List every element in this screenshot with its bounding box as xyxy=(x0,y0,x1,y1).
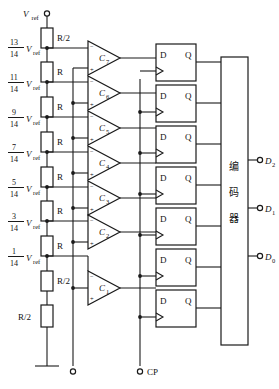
flipflop-7-d-label: D xyxy=(160,50,167,60)
comparator-c6-name: C xyxy=(99,88,106,98)
flipflop-5[interactable]: D Q xyxy=(138,126,221,163)
resistor-r2-bottom xyxy=(41,305,53,327)
clock-dot-5 xyxy=(138,151,142,155)
tap-2-symbol: V xyxy=(26,114,33,124)
comparator-c5-index: 5 xyxy=(106,128,109,135)
output-d2-terminal[interactable] xyxy=(257,157,262,162)
flipflop-3[interactable]: D Q xyxy=(138,208,221,245)
comparator-c4-plus: + xyxy=(90,171,94,178)
comparator-c7-plus: + xyxy=(90,66,94,73)
tap-2-denominator: 14 xyxy=(10,120,18,129)
vref-label-sub: ref xyxy=(32,14,40,21)
tap-label-4: 5 14 V ref xyxy=(8,178,41,199)
tap-0-numerator: 13 xyxy=(10,38,18,47)
resistor-r-4 xyxy=(41,167,53,187)
bus-dot-c6 xyxy=(71,101,75,105)
tap-label-3: 7 14 V ref xyxy=(8,143,41,164)
flipflop-4-d-label: D xyxy=(160,173,167,183)
clock-terminal[interactable] xyxy=(137,369,142,374)
comparator-c6-plus: + xyxy=(90,101,94,108)
resistor-r-3 xyxy=(41,132,53,152)
node-dot-tap-1 xyxy=(45,80,49,84)
resistor-r-2-label: R xyxy=(57,102,63,112)
encoder-char-0: 编 xyxy=(229,160,239,172)
tap-4-sub: ref xyxy=(33,189,41,196)
bus-dot-c3 xyxy=(71,206,75,210)
comparator-c5-name: C xyxy=(99,123,106,133)
tap-label-2: 9 14 V ref xyxy=(8,108,41,129)
resistor-r-7 xyxy=(41,271,53,291)
comparator-c3-name: C xyxy=(99,193,106,203)
output-d1-index: 1 xyxy=(272,209,275,216)
encoder-block[interactable]: 编 码 器 xyxy=(221,57,248,345)
comparator-c4-minus: − xyxy=(90,148,94,155)
comparator-c3-plus: + xyxy=(90,206,94,213)
tap-2-numerator: 9 xyxy=(12,108,16,117)
tap-3-denominator: 14 xyxy=(10,155,18,164)
output-d0[interactable]: D 0 xyxy=(248,252,275,264)
comparator-c1-plus: + xyxy=(90,295,94,302)
tap-3-symbol: V xyxy=(26,149,33,159)
encoder-char-1: 码 xyxy=(229,187,239,198)
tap-label-5: 3 14 V ref xyxy=(8,212,41,233)
output-d0-terminal[interactable] xyxy=(257,253,262,258)
flash-adc-diagram: V ref R/2 R R R R R R R/2 R/2 xyxy=(0,0,279,389)
output-d1-terminal[interactable] xyxy=(257,205,262,210)
output-d1[interactable]: D 1 xyxy=(248,204,275,216)
comparator-c5-minus: − xyxy=(90,113,94,120)
vref-terminal[interactable] xyxy=(44,11,49,16)
flipflop-6[interactable]: D Q xyxy=(138,85,221,122)
resistor-r2-top xyxy=(41,28,53,48)
clock-dot-4 xyxy=(138,192,142,196)
flipflop-1-d-label: D xyxy=(160,296,167,306)
comparator-c7-name: C xyxy=(99,53,106,63)
tap-4-numerator: 5 xyxy=(12,178,16,187)
tap-5-symbol: V xyxy=(26,218,33,228)
flipflop-5-q-label: Q xyxy=(185,132,192,142)
resistor-r-3-label: R xyxy=(57,137,63,147)
resistor-r2-bottom-label: R/2 xyxy=(18,312,31,322)
tap-6-numerator: 1 xyxy=(12,247,16,256)
tap-5-denominator: 14 xyxy=(10,224,18,233)
comparator-c2-plus: + xyxy=(90,240,94,247)
bus-dot-c1 xyxy=(71,286,75,290)
node-dot-tap-4 xyxy=(45,185,49,189)
tap-6-denominator: 14 xyxy=(10,259,18,268)
clock-bus: CP xyxy=(137,79,158,377)
resistor-r-4-label: R xyxy=(57,172,63,182)
clock-label: CP xyxy=(147,367,158,377)
flipflop-1[interactable]: D Q xyxy=(138,290,221,327)
clock-dot-3 xyxy=(138,233,142,237)
node-dot-tap-6 xyxy=(45,254,49,258)
flipflop-3-d-label: D xyxy=(160,214,167,224)
tap-4-denominator: 14 xyxy=(10,190,18,199)
tap-4-symbol: V xyxy=(26,184,33,194)
flipflop-7[interactable]: D Q xyxy=(140,44,221,81)
tap-label-6: 1 14 V ref xyxy=(8,247,41,268)
tap-3-sub: ref xyxy=(33,154,41,161)
flipflop-6-q-label: Q xyxy=(185,91,192,101)
bus-dot-c4 xyxy=(71,171,75,175)
vref-label: V xyxy=(23,9,30,19)
output-d0-index: 0 xyxy=(272,257,275,264)
node-dot-tap-2 xyxy=(45,115,49,119)
tap-2-sub: ref xyxy=(33,119,41,126)
flipflop-5-d-label: D xyxy=(160,132,167,142)
node-dot-tap-3 xyxy=(45,150,49,154)
tap-1-numerator: 11 xyxy=(10,73,18,82)
bus-dot-c2 xyxy=(71,240,75,244)
comparator-c3-minus: − xyxy=(90,183,94,190)
output-d2[interactable]: D 2 xyxy=(248,156,275,168)
outputs: D 2 D 1 D 0 xyxy=(248,156,275,264)
comparator-c5-plus: + xyxy=(90,136,94,143)
flipflop-2[interactable]: D Q xyxy=(138,249,221,286)
output-d2-symbol: D xyxy=(264,156,272,166)
resistor-r-2 xyxy=(41,97,53,117)
flipflop-6-d-label: D xyxy=(160,91,167,101)
analog-input-terminal[interactable] xyxy=(70,369,75,374)
node-dot-tap-0 xyxy=(45,46,49,50)
clock-dot-6 xyxy=(138,110,142,114)
resistor-r-7-label: R/2 xyxy=(57,276,70,286)
resistor-r-5 xyxy=(41,201,53,221)
resistor-r-6 xyxy=(41,236,53,256)
